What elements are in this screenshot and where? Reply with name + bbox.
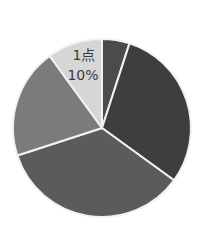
slice-label-category: 1点 (73, 47, 96, 63)
pie-slices (13, 39, 191, 217)
pie-chart: 1点 10% (0, 0, 203, 230)
slice-label-percent: 10% (67, 67, 98, 83)
